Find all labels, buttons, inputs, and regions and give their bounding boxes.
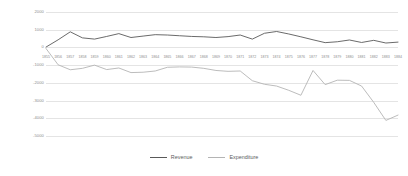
x-axis-tick-label: 1858: [78, 56, 86, 60]
y-axis-tick-label: 2000: [4, 10, 44, 14]
series-line-revenue: [46, 31, 398, 47]
x-axis-tick-label: 1878: [321, 56, 329, 60]
y-axis-tick-label: 1000: [4, 28, 44, 32]
legend-item-revenue[interactable]: Revenue: [150, 155, 193, 160]
x-axis-tick-label: 1855: [42, 56, 50, 60]
chart-legend: RevenueExpenditure: [0, 155, 408, 160]
line-chart: 200010000-1000-2000-3000-4000-5000 18551…: [0, 0, 408, 176]
y-axis-tick-label: -1000: [4, 63, 44, 67]
x-axis-tick-label: 1873: [260, 56, 268, 60]
y-axis-tick-label: 0: [4, 45, 44, 49]
legend-label: Revenue: [171, 155, 193, 160]
x-axis-tick-label: 1874: [273, 56, 281, 60]
legend-label: Expenditure: [229, 155, 258, 160]
y-axis-tick-label: -5000: [4, 134, 44, 138]
y-axis-tick-label: -3000: [4, 99, 44, 103]
series-container: [46, 12, 398, 136]
x-axis-tick-label: 1864: [151, 56, 159, 60]
x-axis-tick-label: 1859: [91, 56, 99, 60]
x-axis-tick-label: 1882: [370, 56, 378, 60]
x-axis-tick-label: 1884: [394, 56, 402, 60]
legend-line-icon: [150, 157, 167, 158]
gridline: [46, 136, 398, 137]
x-axis-tick-label: 1865: [163, 56, 171, 60]
x-axis-tick-label: 1866: [176, 56, 184, 60]
legend-line-icon: [208, 157, 225, 158]
x-axis-tick-label: 1860: [103, 56, 111, 60]
x-axis-tick-label: 1862: [127, 56, 135, 60]
x-axis-tick-label: 1857: [66, 56, 74, 60]
x-axis-tick-label: 1872: [248, 56, 256, 60]
legend-item-expenditure[interactable]: Expenditure: [208, 155, 258, 160]
x-axis-tick-label: 1883: [382, 56, 390, 60]
x-axis-tick-label: 1868: [200, 56, 208, 60]
x-axis-tick-label: 1880: [345, 56, 353, 60]
x-axis-tick-label: 1876: [297, 56, 305, 60]
x-axis-tick-label: 1881: [358, 56, 366, 60]
x-axis-tick-label: 1869: [212, 56, 220, 60]
x-axis-tick-labels: 1855185618571858185918601861186218631864…: [46, 56, 398, 64]
y-axis-tick-label: -2000: [4, 81, 44, 85]
x-axis-tick-label: 1856: [54, 56, 62, 60]
y-axis-tick-label: -4000: [4, 116, 44, 120]
x-axis-tick-label: 1871: [236, 56, 244, 60]
x-axis-tick-label: 1861: [115, 56, 123, 60]
x-axis-tick-label: 1875: [285, 56, 293, 60]
plot-area: [46, 12, 398, 136]
x-axis-tick-label: 1877: [309, 56, 317, 60]
x-axis-tick-label: 1879: [333, 56, 341, 60]
x-axis-tick-label: 1863: [139, 56, 147, 60]
x-axis-tick-label: 1867: [188, 56, 196, 60]
x-axis-tick-label: 1870: [224, 56, 232, 60]
